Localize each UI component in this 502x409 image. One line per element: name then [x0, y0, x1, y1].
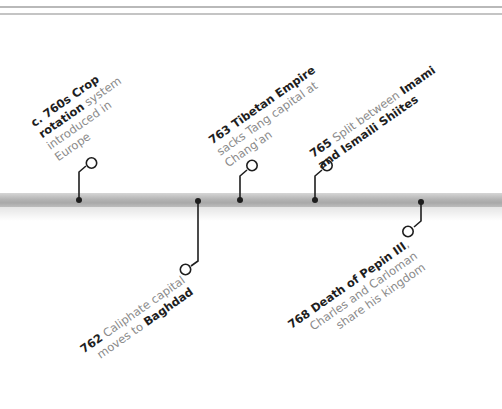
marker-dot-760s	[76, 197, 82, 203]
marker-dot-765	[312, 197, 318, 203]
connector-763	[240, 160, 257, 200]
event-connectors	[0, 0, 502, 409]
connector-768	[403, 202, 421, 237]
connector-762	[180, 201, 198, 275]
marker-dot-763	[237, 197, 243, 203]
marker-dot-768	[418, 199, 424, 205]
connector-760s	[79, 158, 97, 200]
marker-dot-762	[195, 198, 201, 204]
